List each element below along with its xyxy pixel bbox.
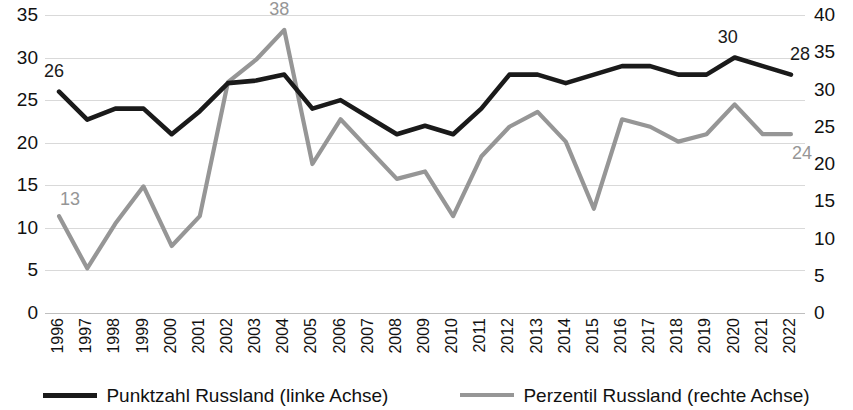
x-axis-tick-label: 2000 <box>163 318 179 354</box>
gridline <box>45 270 805 271</box>
y-axis-right-tick-label: 30 <box>814 80 853 99</box>
y-axis-right-tick-label: 20 <box>814 154 853 173</box>
x-axis-tick-label: 2011 <box>472 318 488 352</box>
legend-label-punktzahl: Punktzahl Russland (linke Achse) <box>106 386 388 405</box>
x-axis-tick-label: 2014 <box>557 318 573 354</box>
y-axis-right-tick-label: 10 <box>814 229 853 248</box>
plot-area <box>45 15 805 313</box>
data-point-label: 26 <box>44 62 64 80</box>
gridline <box>45 228 805 229</box>
x-axis-tick-label: 2017 <box>641 318 657 354</box>
x-axis-tick-label: 2005 <box>303 318 319 354</box>
x-axis-tick-label: 2012 <box>500 318 516 354</box>
x-axis-tick-label: 1999 <box>135 318 151 354</box>
legend-swatch-punktzahl <box>43 393 97 398</box>
y-axis-right-tick-label: 5 <box>814 266 853 285</box>
data-point-label: 38 <box>269 0 289 18</box>
x-axis-tick-label: 2001 <box>191 318 207 354</box>
y-axis-left-tick-label: 30 <box>0 48 38 67</box>
legend-item-perzentil[interactable]: Perzentil Russland (rechte Achse) <box>460 386 809 405</box>
y-axis-left-tick-label: 10 <box>0 218 38 237</box>
x-axis-tick-label: 2022 <box>782 318 798 354</box>
gridline <box>45 143 805 144</box>
x-axis-tick-label: 2003 <box>247 318 263 354</box>
y-axis-right-tick-label: 25 <box>814 117 853 136</box>
gridline <box>45 58 805 59</box>
y-axis-right-tick-label: 0 <box>814 303 853 322</box>
x-axis-tick-label: 2010 <box>444 318 460 354</box>
x-axis-tick-label: 2006 <box>332 318 348 354</box>
y-axis-right-tick-label: 40 <box>814 5 853 24</box>
data-point-label: 28 <box>790 45 810 63</box>
x-axis-tick-label: 1996 <box>50 318 66 354</box>
x-axis-tick-label: 2019 <box>697 318 713 354</box>
x-axis-tick-label: 2018 <box>669 318 685 354</box>
gridline <box>45 185 805 186</box>
x-axis-tick-label: 1997 <box>78 318 94 354</box>
y-axis-right-tick-label: 35 <box>814 42 853 61</box>
x-axis-tick-label: 2013 <box>529 318 545 354</box>
y-axis-left-tick-label: 15 <box>0 175 38 194</box>
y-axis-left-tick-label: 0 <box>0 303 38 322</box>
gridline <box>45 15 805 16</box>
x-axis-tick-label: 2002 <box>219 318 235 354</box>
x-axis-tick-label: 2020 <box>726 318 742 354</box>
x-axis-tick-label: 2009 <box>416 318 432 354</box>
data-point-label: 13 <box>60 190 80 208</box>
legend-label-perzentil: Perzentil Russland (rechte Achse) <box>523 386 809 405</box>
chart-legend: Punktzahl Russland (linke Achse) Perzent… <box>0 380 853 410</box>
x-axis-tick-label: 2007 <box>360 318 376 354</box>
y-axis-right-tick-label: 15 <box>814 191 853 210</box>
gridline <box>45 100 805 101</box>
x-axis-tick-label: 1998 <box>106 318 122 354</box>
y-axis-left-tick-label: 5 <box>0 260 38 279</box>
y-axis-left-tick-label: 20 <box>0 133 38 152</box>
x-axis-tick-label: 2015 <box>585 318 601 354</box>
x-axis-tick-label: 2004 <box>275 318 291 354</box>
data-point-label: 30 <box>718 28 738 46</box>
legend-swatch-perzentil <box>460 393 514 397</box>
x-axis-tick-label: 2008 <box>388 318 404 354</box>
data-point-label: 24 <box>792 144 812 162</box>
x-axis-tick-label: 2016 <box>613 318 629 354</box>
legend-item-punktzahl[interactable]: Punktzahl Russland (linke Achse) <box>43 386 388 405</box>
chart-container: 05101520253035 0510152025303540 19961997… <box>0 0 853 410</box>
x-axis-tick-label: 2021 <box>754 318 770 354</box>
y-axis-left-tick-label: 35 <box>0 5 38 24</box>
gridline <box>45 313 805 314</box>
y-axis-left-tick-label: 25 <box>0 90 38 109</box>
